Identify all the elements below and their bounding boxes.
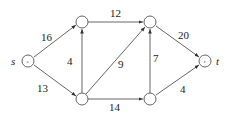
capacity-label-v1-v3: 12	[110, 7, 121, 19]
flow-network-diagram: 16 13 4 12 9 14 7 20 4 s s t t	[0, 0, 230, 122]
capacity-label-v2-v1: 4	[67, 55, 73, 67]
capacity-label-s-v2: 13	[37, 82, 49, 94]
node-v1	[76, 16, 88, 28]
node-t-label: t	[216, 55, 220, 67]
capacity-label-v4-v3: 7	[153, 52, 159, 64]
edge-v4-t	[156, 65, 199, 95]
capacity-label-v3-t: 20	[178, 29, 190, 41]
capacity-label-s-v1: 16	[41, 31, 53, 43]
svg-text:s: s	[27, 59, 29, 64]
capacity-label-v4-t: 4	[180, 83, 186, 95]
node-v2	[76, 93, 88, 105]
edge-v2-v3	[86, 27, 145, 94]
capacity-label-v2-v3: 9	[118, 58, 124, 70]
capacity-label-v2-v4: 14	[109, 101, 121, 113]
node-s: s	[22, 55, 34, 67]
node-v3	[144, 16, 156, 28]
node-v4	[144, 93, 156, 105]
node-t: t	[199, 55, 211, 67]
node-s-label: s	[11, 55, 15, 67]
